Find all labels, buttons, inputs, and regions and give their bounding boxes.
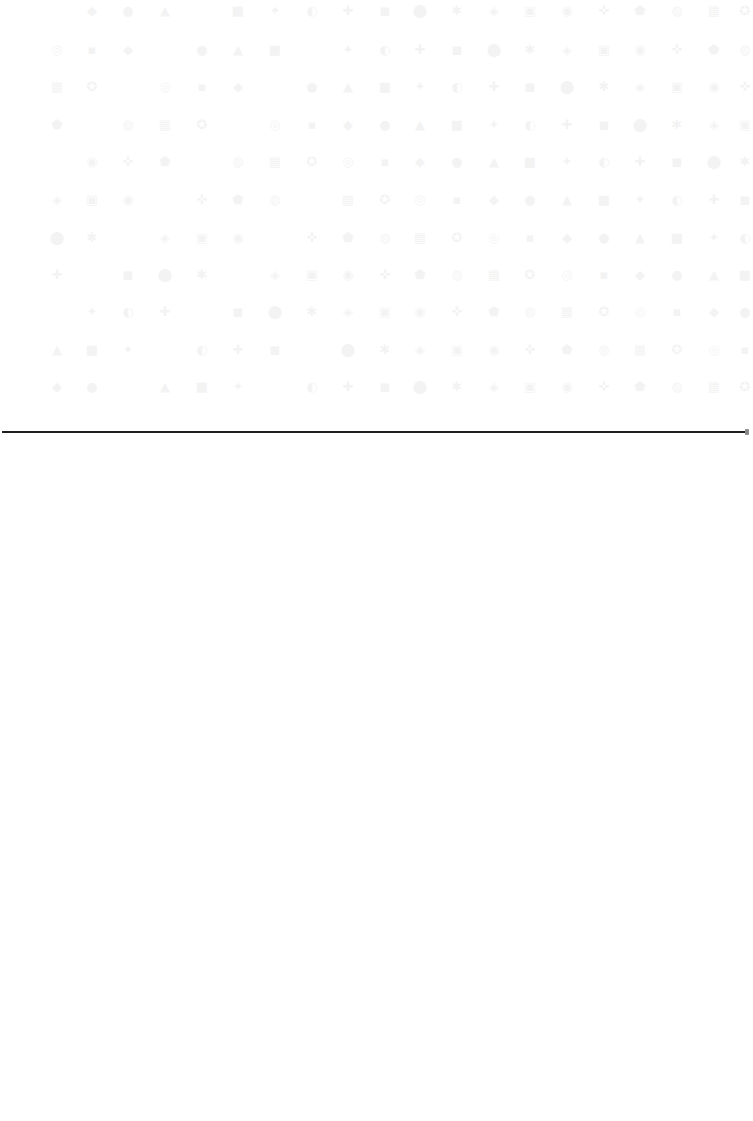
grid-icon[interactable]: ◎ [49, 42, 65, 58]
grid-icon[interactable]: ⬤ [486, 42, 502, 58]
grid-icon[interactable]: ⬟ [632, 3, 648, 19]
grid-icon[interactable]: ◈ [706, 117, 722, 133]
grid-icon[interactable]: ✱ [377, 342, 393, 358]
grid-icon[interactable]: ● [737, 304, 753, 320]
grid-icon[interactable]: ◉ [486, 342, 502, 358]
grid-icon[interactable]: ■ [596, 192, 612, 208]
grid-icon[interactable]: ⬤ [559, 79, 575, 95]
grid-icon[interactable]: ✪ [737, 3, 753, 19]
grid-icon[interactable]: ✦ [267, 3, 283, 19]
grid-icon[interactable]: ▦ [559, 304, 575, 320]
grid-icon[interactable]: ⬤ [49, 230, 65, 246]
grid-icon[interactable]: ▦ [49, 79, 65, 95]
grid-icon[interactable]: ▣ [522, 379, 538, 395]
grid-icon[interactable]: ▲ [559, 192, 575, 208]
grid-icon[interactable]: ✚ [559, 117, 575, 133]
grid-icon[interactable]: ● [120, 3, 136, 19]
grid-icon[interactable]: ◉ [706, 79, 722, 95]
grid-icon[interactable]: ◼ [522, 79, 538, 95]
grid-icon[interactable]: ◐ [669, 192, 685, 208]
grid-icon[interactable]: ◉ [84, 154, 100, 170]
grid-icon[interactable]: ⬤ [267, 304, 283, 320]
grid-icon[interactable]: ✱ [449, 379, 465, 395]
grid-icon[interactable]: ◍ [737, 42, 753, 58]
grid-icon[interactable]: ▪ [304, 117, 320, 133]
grid-icon[interactable]: ● [669, 267, 685, 283]
grid-icon[interactable]: ◐ [596, 154, 612, 170]
grid-icon[interactable]: ▦ [157, 117, 173, 133]
grid-icon[interactable]: ✦ [632, 192, 648, 208]
grid-icon[interactable]: ✱ [737, 154, 753, 170]
grid-icon[interactable]: ◐ [377, 42, 393, 58]
grid-icon[interactable]: ◐ [737, 230, 753, 246]
grid-icon[interactable]: ● [194, 42, 210, 58]
grid-icon[interactable]: ◍ [449, 267, 465, 283]
grid-icon[interactable]: ◆ [340, 117, 356, 133]
grid-icon[interactable]: ✜ [596, 379, 612, 395]
grid-icon[interactable]: ▪ [194, 79, 210, 95]
grid-icon[interactable]: ◼ [230, 304, 246, 320]
grid-icon[interactable]: ▣ [194, 230, 210, 246]
grid-icon[interactable]: ✪ [522, 267, 538, 283]
grid-icon[interactable]: ⬤ [157, 267, 173, 283]
grid-icon[interactable]: ▣ [596, 42, 612, 58]
grid-icon[interactable]: ✪ [194, 117, 210, 133]
grid-icon[interactable]: ◆ [412, 154, 428, 170]
grid-icon[interactable]: ▣ [522, 3, 538, 19]
grid-icon[interactable]: ✱ [449, 3, 465, 19]
grid-icon[interactable]: ⬟ [230, 192, 246, 208]
grid-icon[interactable]: ▦ [706, 3, 722, 19]
grid-icon[interactable]: ◆ [230, 79, 246, 95]
grid-icon[interactable]: ◎ [157, 79, 173, 95]
grid-icon[interactable]: ▪ [377, 154, 393, 170]
grid-icon[interactable]: ✦ [412, 79, 428, 95]
grid-icon[interactable]: ✜ [377, 267, 393, 283]
grid-icon[interactable]: ◉ [632, 42, 648, 58]
grid-icon[interactable]: ⬤ [412, 3, 428, 19]
grid-icon[interactable]: ⬤ [706, 154, 722, 170]
grid-icon[interactable]: ◼ [669, 154, 685, 170]
grid-icon[interactable]: ✜ [522, 342, 538, 358]
grid-icon[interactable]: ▪ [84, 42, 100, 58]
grid-icon[interactable]: ◎ [267, 117, 283, 133]
grid-icon[interactable]: ◈ [486, 379, 502, 395]
grid-icon[interactable]: ✪ [84, 79, 100, 95]
grid-icon[interactable]: ■ [522, 154, 538, 170]
grid-icon[interactable]: ✚ [230, 342, 246, 358]
grid-icon[interactable]: ◐ [120, 304, 136, 320]
grid-icon[interactable]: ✱ [669, 117, 685, 133]
grid-icon[interactable]: ▣ [449, 342, 465, 358]
grid-icon[interactable]: ● [84, 379, 100, 395]
grid-icon[interactable]: ⬟ [49, 117, 65, 133]
grid-icon[interactable]: ■ [267, 42, 283, 58]
grid-icon[interactable]: ◆ [706, 304, 722, 320]
grid-icon[interactable]: ⬤ [412, 379, 428, 395]
grid-icon[interactable]: ✪ [596, 304, 612, 320]
grid-icon[interactable]: ✦ [84, 304, 100, 320]
grid-icon[interactable]: ◆ [559, 230, 575, 246]
grid-icon[interactable]: ✚ [340, 3, 356, 19]
grid-icon[interactable]: ▪ [449, 192, 465, 208]
grid-icon[interactable]: ◉ [120, 192, 136, 208]
grid-icon[interactable]: ◆ [632, 267, 648, 283]
grid-icon[interactable]: ◍ [669, 3, 685, 19]
grid-icon[interactable]: ◉ [559, 379, 575, 395]
grid-icon[interactable]: ✪ [377, 192, 393, 208]
grid-icon[interactable]: ⬟ [157, 154, 173, 170]
grid-icon[interactable]: ⬤ [340, 342, 356, 358]
grid-icon[interactable]: ◼ [120, 267, 136, 283]
grid-icon[interactable]: ■ [84, 342, 100, 358]
grid-icon[interactable]: ◐ [522, 117, 538, 133]
grid-icon[interactable]: ▪ [669, 304, 685, 320]
grid-icon[interactable]: ✚ [340, 379, 356, 395]
grid-icon[interactable]: ◉ [559, 3, 575, 19]
grid-icon[interactable]: ◐ [304, 3, 320, 19]
grid-icon[interactable]: ◉ [412, 304, 428, 320]
grid-icon[interactable]: ■ [230, 3, 246, 19]
grid-icon[interactable]: ■ [449, 117, 465, 133]
grid-icon[interactable]: ◈ [632, 79, 648, 95]
grid-icon[interactable]: ◎ [486, 230, 502, 246]
grid-icon[interactable]: ● [377, 117, 393, 133]
grid-icon[interactable]: ▣ [84, 192, 100, 208]
grid-icon[interactable]: ✚ [412, 42, 428, 58]
